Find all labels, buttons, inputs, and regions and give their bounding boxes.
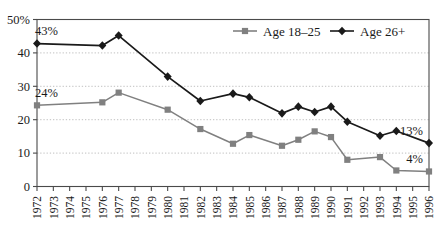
chart-container: 01020304050% 197219731974197519761977197… — [0, 0, 444, 232]
x-axis-labels: 1972197319741975197619771978197919801981… — [31, 196, 435, 219]
annotation-4pct: 4% — [406, 152, 423, 166]
data-point-1977 — [116, 90, 122, 96]
xtick-label-1995: 1995 — [407, 196, 419, 219]
xtick-label-1996: 1996 — [423, 196, 435, 219]
xtick-label-1988: 1988 — [293, 196, 305, 219]
ytick-label-20: 20 — [18, 113, 31, 127]
xtick-label-1985: 1985 — [244, 196, 256, 219]
ytick-label-10: 10 — [18, 146, 31, 160]
xtick-label-1982: 1982 — [195, 196, 207, 219]
data-point-1989 — [312, 128, 318, 134]
annotation-13pct: 13% — [400, 124, 423, 138]
data-point-1987 — [279, 143, 285, 149]
xtick-label-1979: 1979 — [146, 196, 158, 219]
annotation-24pct: 24% — [35, 86, 58, 100]
ytick-label-30: 30 — [18, 80, 31, 94]
xtick-label-1990: 1990 — [325, 196, 337, 219]
xtick-label-1989: 1989 — [309, 196, 321, 219]
data-point-1988 — [295, 137, 301, 143]
annotation-43pct: 43% — [35, 24, 58, 38]
line-chart: 01020304050% 197219731974197519761977197… — [0, 0, 444, 232]
xtick-label-1980: 1980 — [162, 196, 174, 219]
xtick-label-1978: 1978 — [129, 196, 141, 219]
data-point-1984 — [230, 141, 236, 147]
xtick-label-1983: 1983 — [211, 196, 223, 219]
legend-label: Age 18–25 — [263, 24, 320, 39]
xtick-label-1991: 1991 — [342, 196, 354, 219]
xtick-label-1986: 1986 — [260, 196, 272, 219]
data-point-1980 — [165, 107, 171, 113]
legend-marker-square — [242, 28, 248, 34]
xtick-label-1972: 1972 — [31, 196, 43, 219]
ytick-label-40: 40 — [18, 46, 31, 60]
xtick-label-1984: 1984 — [227, 196, 239, 219]
data-point-1993 — [377, 154, 383, 160]
data-point-1994 — [393, 167, 399, 173]
xtick-label-1977: 1977 — [113, 196, 125, 219]
data-point-1976 — [99, 99, 105, 105]
data-point-1991 — [344, 157, 350, 163]
xtick-label-1976: 1976 — [97, 196, 109, 219]
xtick-label-1987: 1987 — [276, 196, 288, 219]
data-point-1985 — [246, 132, 252, 138]
xtick-label-1994: 1994 — [391, 196, 403, 219]
data-point-1982 — [197, 126, 203, 132]
data-point-1972 — [34, 102, 40, 108]
xtick-label-1975: 1975 — [80, 196, 92, 219]
xtick-label-1973: 1973 — [48, 196, 60, 219]
data-point-1990 — [328, 134, 334, 140]
xtick-label-1981: 1981 — [178, 196, 190, 219]
ytick-label-50: 50% — [7, 13, 30, 27]
xtick-label-1993: 1993 — [374, 196, 386, 219]
ytick-label-0: 0 — [24, 180, 30, 194]
xtick-label-1974: 1974 — [64, 196, 76, 219]
data-point-1996 — [426, 168, 432, 174]
xtick-label-1992: 1992 — [358, 196, 370, 219]
legend-label: Age 26+ — [360, 24, 405, 39]
